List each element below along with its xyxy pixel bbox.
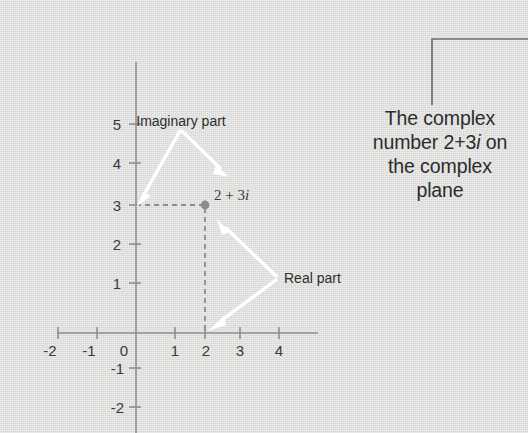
guide-lines xyxy=(136,205,205,331)
caption-line-2: number 2+3i on xyxy=(352,130,528,154)
data-point-label: 2 + 3i xyxy=(214,187,249,203)
x-tick-label-4: 4 xyxy=(275,342,283,359)
caption-bracket-path xyxy=(432,39,528,105)
y-tick-label-1: 1 xyxy=(113,275,121,292)
x-tick-label-1: 1 xyxy=(171,342,179,359)
data-point-2-plus-3i xyxy=(201,201,210,210)
y-axis-tick-labels: 5 4 3 2 1 -1 -2 xyxy=(111,116,124,416)
y-axis-ticks xyxy=(129,124,141,407)
caption-line-3: the complex xyxy=(352,154,528,178)
real-part-arrow-up-shaft xyxy=(226,228,276,276)
imaginary-part-arrow-left-shaft xyxy=(142,131,180,198)
caption-corner-bracket xyxy=(352,34,528,106)
real-part-label: Real part xyxy=(284,270,341,286)
real-part-arrow-down-shaft xyxy=(222,280,276,320)
x-tick-label-neg2: -2 xyxy=(43,342,56,359)
data-point-label-imaginary-unit: i xyxy=(245,187,249,203)
real-part-arrow-down-head xyxy=(208,316,226,331)
y-tick-label-2: 2 xyxy=(113,236,121,253)
complex-plane-figure: 5 4 3 2 1 -1 -2 -2 -1 0 1 2 3 4 xyxy=(0,0,360,433)
figure-page: 5 4 3 2 1 -1 -2 -2 -1 0 1 2 3 4 xyxy=(0,0,528,433)
x-tick-label-neg1: -1 xyxy=(82,342,95,359)
caption-line-4: plane xyxy=(352,178,528,202)
y-tick-label-neg2: -2 xyxy=(111,399,124,416)
caption-block: The complex number 2+3i on the complex p… xyxy=(352,34,528,224)
real-part-callout: Real part xyxy=(208,219,341,331)
caption-line-2-pre: number 2+3 xyxy=(373,131,477,153)
y-tick-label-5: 5 xyxy=(113,116,121,133)
imaginary-part-arrow-right-shaft xyxy=(182,131,220,168)
data-point-label-real: 2 + 3 xyxy=(214,187,245,203)
real-part-arrow-up-head xyxy=(217,219,230,235)
x-tick-label-0: 0 xyxy=(120,342,128,359)
y-tick-label-4: 4 xyxy=(113,155,121,172)
caption-text: The complex number 2+3i on the complex p… xyxy=(352,106,528,202)
caption-line-1: The complex xyxy=(352,106,528,130)
y-tick-label-neg1: -1 xyxy=(111,360,124,377)
imaginary-part-label: Imaginary part xyxy=(136,113,226,129)
y-tick-label-3: 3 xyxy=(113,197,121,214)
x-axis-tick-labels: -2 -1 0 1 2 3 4 xyxy=(43,342,283,359)
x-tick-label-3: 3 xyxy=(236,342,244,359)
x-tick-label-2: 2 xyxy=(202,342,210,359)
caption-line-2-post: on xyxy=(481,131,508,153)
